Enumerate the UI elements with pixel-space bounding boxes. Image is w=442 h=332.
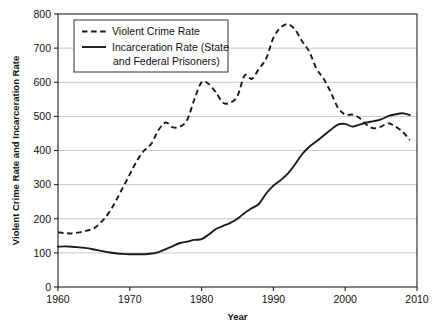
- x-tick-label: 1980: [190, 293, 214, 305]
- x-tick-label: 1990: [262, 293, 286, 305]
- chart-container: 0100200300400500600700800 19601970198019…: [0, 0, 442, 332]
- y-tick-label: 200: [33, 213, 51, 225]
- y-tick-label: 700: [33, 42, 51, 54]
- y-tick-label: 0: [45, 281, 51, 293]
- legend-label-incarceration-rate: Incarceration Rate (State: [112, 41, 229, 53]
- y-axis-title: Violent Crime Rate and Incarceration Rat…: [10, 56, 21, 245]
- legend: Violent Crime Rate Incarceration Rate (S…: [74, 20, 229, 72]
- y-tick-label: 500: [33, 110, 51, 122]
- line-chart: 0100200300400500600700800 19601970198019…: [0, 0, 442, 332]
- x-tick-label: 1970: [118, 293, 142, 305]
- x-tick-label: 1960: [46, 293, 70, 305]
- x-tick-label: 2000: [334, 293, 358, 305]
- y-axis-tick-labels: 0100200300400500600700800: [33, 8, 51, 293]
- legend-label-incarceration-rate-line2: and Federal Prisoners): [113, 55, 220, 67]
- legend-label-violent-crime-rate: Violent Crime Rate: [112, 25, 200, 37]
- y-tick-label: 100: [33, 247, 51, 259]
- x-tick-label: 2010: [405, 293, 429, 305]
- y-tick-label: 400: [33, 144, 51, 156]
- x-axis-title: Year: [227, 311, 247, 322]
- y-tick-label: 800: [33, 8, 51, 20]
- y-tick-label: 300: [33, 178, 51, 190]
- y-tick-label: 600: [33, 76, 51, 88]
